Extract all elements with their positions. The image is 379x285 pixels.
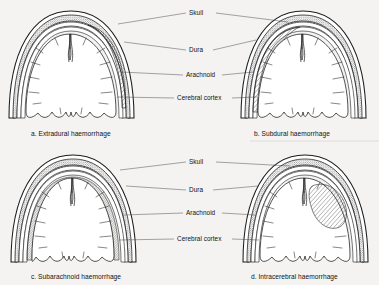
- label-arachnoid-top: Arachnoid: [186, 71, 216, 78]
- label-skull-bottom: Skull: [189, 158, 203, 165]
- label-dura-top: Dura: [189, 46, 203, 53]
- label-skull-top: Skull: [189, 9, 203, 16]
- label-cerebral-cortex-bottom: Cerebral cortex: [177, 235, 222, 242]
- label-dura-bottom: Dura: [189, 186, 203, 193]
- caption-panel-a: a. Extradural haemorrhage: [31, 130, 111, 138]
- caption-panel-d: d. Intracerebral haemorrhage: [251, 273, 338, 281]
- label-cerebral-cortex-top: Cerebral cortex: [177, 94, 222, 101]
- caption-panel-b: b. Subdural haemorrhage: [254, 130, 330, 138]
- figure-canvas: Skull Dura Arachnoid Cerebral cortex Sku…: [0, 0, 379, 285]
- caption-panel-c: c. Subarachnoid haemorrhage: [31, 273, 121, 281]
- label-arachnoid-bottom: Arachnoid: [186, 209, 216, 216]
- haemorrhage-figure: Skull Dura Arachnoid Cerebral cortex Sku…: [0, 0, 379, 285]
